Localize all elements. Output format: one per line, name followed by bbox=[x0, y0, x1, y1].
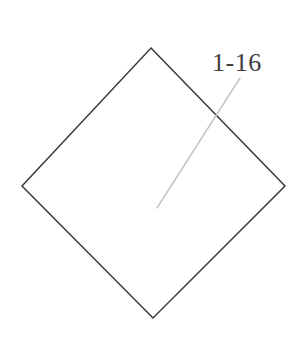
figure-canvas: 1-16 bbox=[0, 0, 305, 354]
rotated-square-shape bbox=[22, 48, 285, 318]
callout-label-1-16: 1-16 bbox=[212, 50, 262, 76]
